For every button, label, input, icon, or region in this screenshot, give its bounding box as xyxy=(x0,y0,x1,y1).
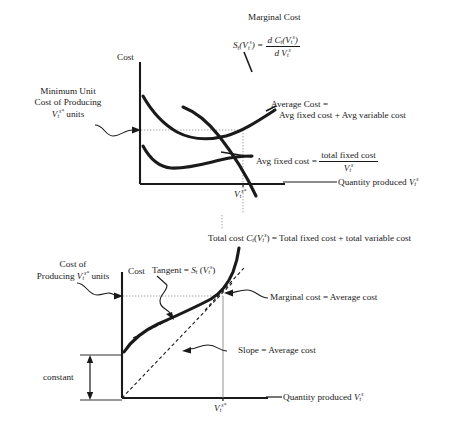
bottom-x-tick-label: Vts* xyxy=(214,402,226,414)
bottom-y-axis-label: Cost xyxy=(128,266,145,277)
figure-background xyxy=(0,0,475,435)
bottom-x-axis-label: Quantity produced Vts xyxy=(283,391,363,403)
top-x-axis-label: Quantity produced Vts xyxy=(338,176,418,188)
bottom-slope-label: Slope = Average cost xyxy=(238,345,316,356)
top-avg-fixed-cost-label: Avg fixed cost = total fixed cost Vts xyxy=(256,150,378,173)
formula-numerator: d Ct(Vts) xyxy=(266,34,300,47)
bottom-constant-label: constant xyxy=(43,372,74,383)
top-marginal-cost-title: Marginal Cost xyxy=(248,12,301,23)
bottom-tangent-label: Tangent = St (Vts) xyxy=(152,264,215,276)
top-y-axis-label: Cost xyxy=(117,52,134,63)
avg-fixed-lead: Avg fixed cost = xyxy=(256,156,319,166)
formula-denominator: d Vts xyxy=(266,47,300,59)
annotation-line-3: Vts* units xyxy=(20,108,116,120)
average-cost-line-1: Average Cost = xyxy=(271,99,406,110)
top-marginal-cost-formula: St(Vts) = d Ct(Vts) d Vts xyxy=(233,34,300,59)
annotation-line-2: Cost of Producing xyxy=(20,97,116,108)
bottom-annotation-line-1: Cost of xyxy=(18,259,128,270)
avg-fixed-numerator: total fixed cost xyxy=(319,150,378,162)
average-cost-line-2: Avg fixed cost + Avg variable cost xyxy=(271,110,406,121)
avg-fixed-fraction: total fixed cost Vts xyxy=(319,150,378,173)
bottom-total-cost-label: Total cost Ct(Vts) = Total fixed cost + … xyxy=(208,232,411,244)
annotation-line-1: Minimum Unit xyxy=(20,86,116,97)
bottom-annotation-line-2: Producing Vts* units xyxy=(18,270,128,282)
avg-fixed-denominator: Vts xyxy=(319,162,378,174)
bottom-marginal-equals-average-label: Marginal cost = Average cost xyxy=(270,292,377,303)
formula-equals: = xyxy=(257,40,263,50)
bottom-cost-of-producing-annotation: Cost of Producing Vts* units xyxy=(18,259,128,282)
formula-fraction: d Ct(Vts) d Vts xyxy=(266,34,300,59)
top-x-tick-label: Vts* xyxy=(234,188,246,200)
cost-curves-figure xyxy=(0,0,475,435)
top-average-cost-label: Average Cost = Avg fixed cost + Avg vari… xyxy=(271,99,406,121)
top-min-unit-cost-annotation: Minimum Unit Cost of Producing Vts* unit… xyxy=(20,86,116,120)
